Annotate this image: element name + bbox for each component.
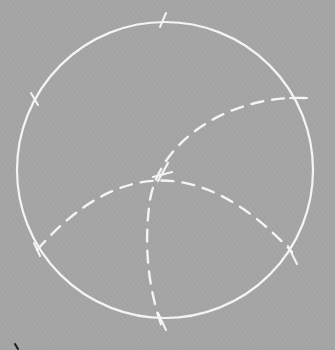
board-background [0, 0, 335, 350]
sphere-diagram [0, 0, 335, 350]
chalkboard-diagram [0, 0, 335, 350]
